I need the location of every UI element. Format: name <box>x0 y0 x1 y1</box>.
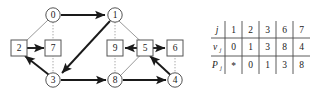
table-cell-vj-1: 0 <box>231 42 236 52</box>
node-6-label: 6 <box>173 43 178 53</box>
table-cell-vj-2: 1 <box>248 42 253 52</box>
node-1[interactable]: 1 <box>108 8 122 22</box>
table-col-header-4: 6 <box>282 25 287 35</box>
node-5-label: 5 <box>143 43 148 53</box>
node-5[interactable]: 5 <box>137 40 153 56</box>
table-col-header-1: 1 <box>231 25 236 35</box>
node-6[interactable]: 6 <box>167 40 183 56</box>
table-cell-pj-3: 1 <box>265 60 270 70</box>
node-3-label: 3 <box>51 75 56 85</box>
table-cell-pj-5: 8 <box>299 60 304 70</box>
node-7-label: 7 <box>51 43 56 53</box>
node-9[interactable]: 9 <box>107 40 123 56</box>
table-col-header-5: 7 <box>299 25 304 35</box>
table-row-label-p: P <box>211 60 218 70</box>
node-4-label: 4 <box>173 75 178 85</box>
node-2-label: 2 <box>17 43 22 53</box>
node-4[interactable]: 4 <box>168 73 182 87</box>
table-row-label-p-subscript: j <box>219 65 222 71</box>
table-cell-vj-3: 3 <box>265 42 270 52</box>
table-col-header-3: 3 <box>265 25 270 35</box>
node-9-label: 9 <box>113 43 118 53</box>
table-cell-pj-1: * <box>231 61 236 71</box>
table-cell-pj-4: 3 <box>282 60 287 70</box>
node-2[interactable]: 2 <box>11 40 27 56</box>
node-7[interactable]: 7 <box>45 40 61 56</box>
table-cell-vj-4: 8 <box>282 42 287 52</box>
node-3[interactable]: 3 <box>46 73 60 87</box>
node-8-label: 8 <box>113 75 118 85</box>
table-cell-vj-5: 4 <box>299 42 304 52</box>
table-cell-pj-2: 0 <box>248 60 253 70</box>
node-8[interactable]: 8 <box>108 73 122 87</box>
node-0[interactable]: 0 <box>46 8 60 22</box>
table-row-label-v-subscript: j <box>219 47 222 53</box>
figure-container: 0 1 2 7 9 5 <box>0 0 311 98</box>
table-col-header-2: 2 <box>248 25 253 35</box>
node-1-label: 1 <box>113 10 118 20</box>
node-0-label: 0 <box>51 10 56 20</box>
graph-and-table-figure: 0 1 2 7 9 5 <box>0 0 311 98</box>
